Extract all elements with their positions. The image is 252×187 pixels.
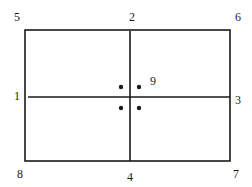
dot-2 — [137, 85, 141, 89]
outer-rectangle — [25, 30, 230, 161]
label-5: 5 — [14, 11, 20, 23]
label-3: 3 — [235, 94, 241, 106]
label-7: 7 — [233, 168, 239, 180]
dot-3 — [119, 106, 123, 110]
dot-4 — [137, 106, 141, 110]
label-8: 8 — [17, 168, 23, 180]
label-1: 1 — [14, 90, 20, 102]
label-9: 9 — [150, 75, 156, 87]
label-2: 2 — [129, 11, 135, 23]
diagram-canvas — [0, 0, 252, 187]
label-4: 4 — [127, 171, 133, 183]
label-6: 6 — [235, 11, 241, 23]
dot-1 — [119, 85, 123, 89]
